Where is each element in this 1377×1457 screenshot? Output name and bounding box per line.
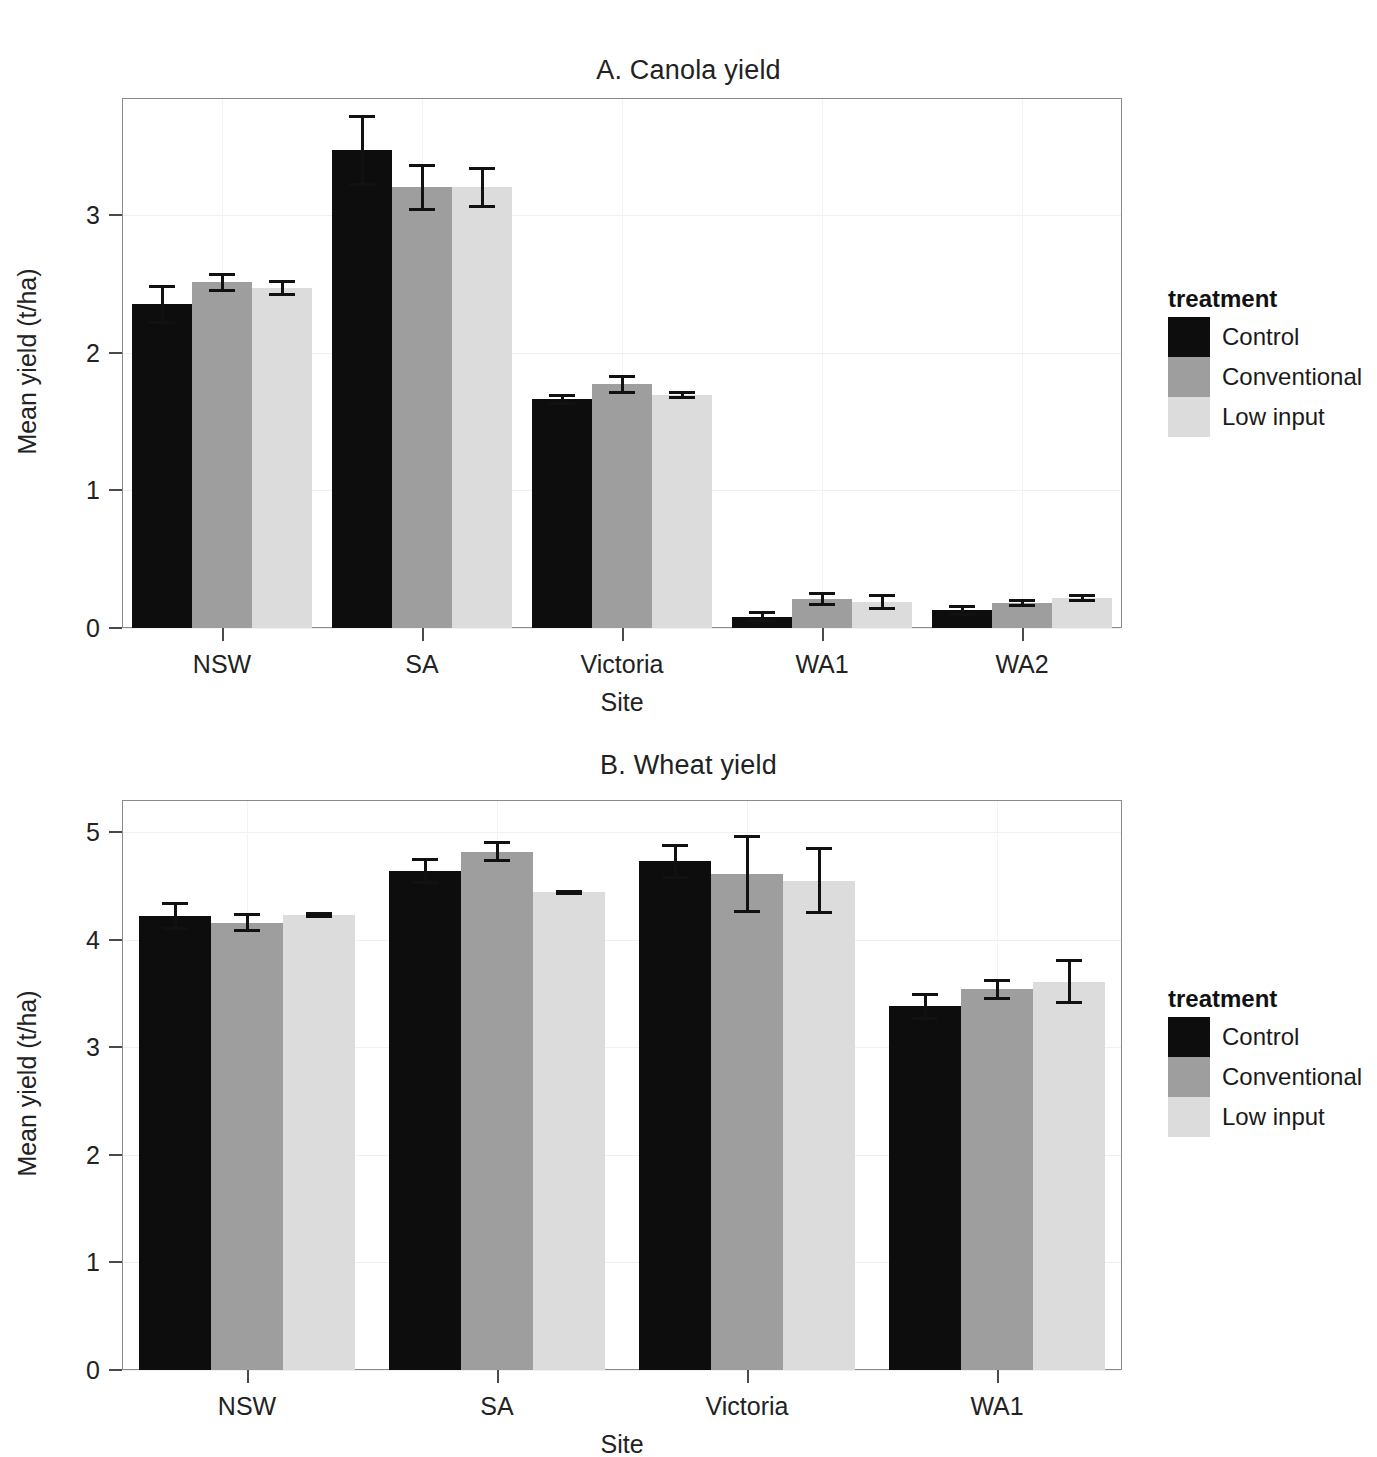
x-tick-mark <box>247 1370 249 1383</box>
legend-a-item-control[interactable]: Control <box>1168 317 1362 357</box>
error-bar <box>732 611 792 622</box>
error-bar-cap-top <box>269 280 295 283</box>
legend-a-title: treatment <box>1168 285 1362 313</box>
error-bar-stem <box>1068 959 1071 1004</box>
error-bar-cap-bottom <box>549 402 575 405</box>
panel-a-x-axis-label: Site <box>0 688 1244 717</box>
bar-victoria-conventional <box>711 874 783 1370</box>
error-bar-cap-top <box>869 594 895 597</box>
error-bar-stem <box>746 835 749 912</box>
error-bar <box>652 391 712 399</box>
legend-swatch-control-icon <box>1168 317 1210 357</box>
error-bar-cap-bottom <box>1069 599 1095 602</box>
bar-victoria-control <box>639 861 711 1370</box>
error-bar <box>961 979 1033 1001</box>
bar-nsw-low-input <box>252 288 312 628</box>
bar-victoria-conventional <box>592 384 652 628</box>
error-bar <box>211 913 283 932</box>
bar-nsw-conventional <box>211 923 283 1370</box>
error-bar-stem <box>421 164 424 211</box>
error-bar-cap-top <box>749 611 775 614</box>
error-bar-cap-bottom <box>809 603 835 606</box>
error-bar-stem <box>161 285 164 324</box>
error-bar-cap-bottom <box>1056 1001 1082 1004</box>
legend-b-item-control[interactable]: Control <box>1168 1017 1362 1057</box>
error-bar-stem <box>361 115 364 187</box>
x-tick-mark <box>822 628 824 641</box>
x-tick-label: SA <box>405 650 438 679</box>
y-tick-mark <box>109 214 122 216</box>
error-bar-stem <box>818 847 821 914</box>
bar-sa-control <box>332 150 392 628</box>
y-tick-label: 1 <box>86 476 100 505</box>
error-bar-cap-top <box>162 902 188 905</box>
error-bar-cap-bottom <box>556 892 582 895</box>
legend-swatch-control-icon <box>1168 1017 1210 1057</box>
error-bar-cap-bottom <box>306 915 332 918</box>
error-bar-cap-top <box>806 847 832 850</box>
legend-b-title: treatment <box>1168 985 1362 1013</box>
error-bar <box>139 902 211 930</box>
error-bar-cap-bottom <box>749 619 775 622</box>
error-bar-cap-top <box>349 115 375 118</box>
y-tick-label: 3 <box>86 1033 100 1062</box>
error-bar-cap-bottom <box>609 391 635 394</box>
legend-swatch-low-input-icon <box>1168 1097 1210 1137</box>
y-tick-label: 3 <box>86 201 100 230</box>
panel-a-title: A. Canola yield <box>0 55 1377 86</box>
x-tick-label: WA2 <box>995 650 1048 679</box>
y-tick-label: 2 <box>86 1140 100 1169</box>
error-bar <box>852 594 912 611</box>
legend-a-item-conventional[interactable]: Conventional <box>1168 357 1362 397</box>
error-bar <box>889 993 961 1021</box>
panel-b-title: B. Wheat yield <box>0 750 1377 781</box>
error-bar-cap-top <box>669 391 695 394</box>
bar-sa-low-input <box>452 187 512 628</box>
error-bar <box>792 592 852 606</box>
x-gridline <box>822 99 823 627</box>
x-tick-mark <box>222 628 224 641</box>
y-tick-label: 2 <box>86 338 100 367</box>
bar-sa-conventional <box>461 852 533 1370</box>
x-tick-label: WA1 <box>795 650 848 679</box>
y-tick-label: 0 <box>86 1356 100 1385</box>
error-bar-cap-top <box>149 285 175 288</box>
legend-a-label-conventional: Conventional <box>1222 363 1362 391</box>
x-tick-mark <box>1022 628 1024 641</box>
legend-a-item-low-input[interactable]: Low input <box>1168 397 1362 437</box>
legend-b-item-conventional[interactable]: Conventional <box>1168 1057 1362 1097</box>
error-bar-cap-bottom <box>209 289 235 292</box>
y-gridline <box>123 1370 1121 1371</box>
error-bar-stem <box>924 993 927 1021</box>
error-bar <box>192 273 252 292</box>
legend-a-label-low-input: Low input <box>1222 403 1325 431</box>
error-bar-cap-bottom <box>806 911 832 914</box>
y-tick-mark <box>109 352 122 354</box>
bar-victoria-control <box>532 399 592 628</box>
x-tick-label: WA1 <box>970 1392 1023 1421</box>
legend-b-label-conventional: Conventional <box>1222 1063 1362 1091</box>
error-bar-cap-top <box>984 979 1010 982</box>
error-bar-cap-top <box>549 394 575 397</box>
error-bar <box>1052 594 1112 602</box>
legend-panel-a: treatment Control Conventional Low input <box>1168 285 1362 437</box>
y-tick-mark <box>109 1046 122 1048</box>
error-bar-cap-bottom <box>349 183 375 186</box>
x-tick-mark <box>997 1370 999 1383</box>
error-bar-cap-top <box>484 841 510 844</box>
legend-b-item-low-input[interactable]: Low input <box>1168 1097 1362 1137</box>
legend-b-label-low-input: Low input <box>1222 1103 1325 1131</box>
error-bar <box>283 912 355 918</box>
error-bar-stem <box>674 844 677 878</box>
error-bar <box>992 599 1052 607</box>
y-tick-mark <box>109 627 122 629</box>
error-bar-cap-bottom <box>869 607 895 610</box>
y-tick-label: 4 <box>86 925 100 954</box>
error-bar-cap-top <box>1009 599 1035 602</box>
error-bar-cap-top <box>412 858 438 861</box>
bar-victoria-low-input <box>652 395 712 628</box>
y-tick-label: 0 <box>86 614 100 643</box>
legend-swatch-low-input-icon <box>1168 397 1210 437</box>
error-bar-cap-bottom <box>949 613 975 616</box>
